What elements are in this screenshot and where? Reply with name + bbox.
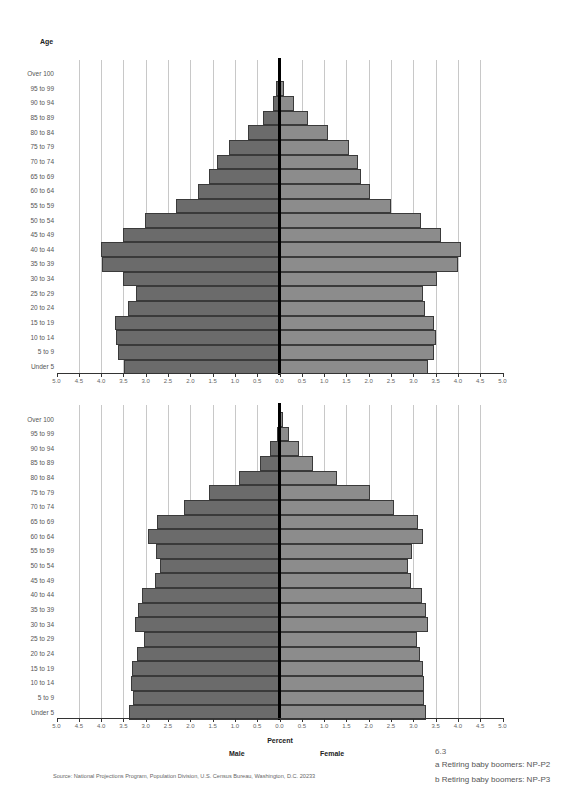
x-tick-label: 3.5 (426, 723, 446, 729)
x-tick (213, 718, 214, 722)
male-bar (148, 529, 279, 544)
age-group-label: Under 5 (0, 708, 54, 718)
gridline (79, 405, 80, 718)
female-bar (280, 500, 394, 515)
x-tick (280, 718, 281, 722)
male-bar (138, 603, 279, 618)
x-tick (391, 718, 392, 722)
x-tick (168, 718, 169, 722)
x-tick-label: 5.0 (47, 723, 67, 729)
male-bar (131, 676, 280, 691)
male-bar (184, 500, 279, 515)
age-group-label: 80 to 84 (0, 473, 54, 483)
gridline (436, 405, 437, 718)
pyramid-chart-b: Over 10095 to 9990 to 9485 to 8980 to 84… (0, 0, 563, 795)
male-bar (260, 456, 279, 471)
caption-b: b Retiring baby boomers: NP-P3 (435, 775, 550, 784)
age-group-label: 60 to 64 (0, 532, 54, 542)
x-tick (57, 718, 58, 722)
age-group-label: 75 to 79 (0, 488, 54, 498)
x-tick (346, 718, 347, 722)
x-tick (79, 718, 80, 722)
male-bar (142, 588, 280, 603)
female-bar (280, 529, 423, 544)
female-bar (280, 544, 413, 559)
male-bar (132, 661, 279, 676)
x-tick-label: 4.0 (448, 723, 468, 729)
male-bar (155, 573, 280, 588)
age-group-label: 15 to 19 (0, 664, 54, 674)
gridline (458, 405, 459, 718)
age-group-label: Over 100 (0, 415, 54, 425)
age-group-label: 40 to 44 (0, 590, 54, 600)
male-bar (209, 485, 279, 500)
x-tick-label: 1.5 (203, 723, 223, 729)
x-tick (146, 718, 147, 722)
x-tick (101, 718, 102, 722)
x-tick-label: 1.5 (336, 723, 356, 729)
x-tick-label: 0.0 (270, 723, 290, 729)
male-bar (156, 544, 280, 559)
male-bar (239, 471, 279, 486)
female-bar (280, 515, 419, 530)
age-group-label: 20 to 24 (0, 649, 54, 659)
x-tick-label: 5.0 (493, 723, 513, 729)
x-tick-label: 1.0 (314, 723, 334, 729)
male-bar (137, 647, 279, 662)
x-tick (190, 718, 191, 722)
age-group-label: 65 to 69 (0, 517, 54, 527)
x-tick (324, 718, 325, 722)
x-tick-label: 1.0 (225, 723, 245, 729)
x-tick-label: 2.0 (180, 723, 200, 729)
x-tick-label: 2.5 (381, 723, 401, 729)
gridline (480, 405, 481, 718)
x-tick-label: 2.0 (359, 723, 379, 729)
age-group-label: 25 to 29 (0, 634, 54, 644)
female-bar (280, 485, 371, 500)
x-tick (503, 718, 504, 722)
center-zero-line (278, 403, 281, 720)
age-group-label: 10 to 14 (0, 678, 54, 688)
x-tick (458, 718, 459, 722)
age-group-label: 90 to 94 (0, 444, 54, 454)
gridline (101, 405, 102, 718)
age-group-label: 45 to 49 (0, 576, 54, 586)
female-bar (280, 573, 412, 588)
age-group-label: 50 to 54 (0, 561, 54, 571)
female-bar (280, 661, 424, 676)
female-bar (280, 691, 424, 706)
male-bar (160, 559, 280, 574)
x-tick-label: 3.0 (403, 723, 423, 729)
age-group-label: 70 to 74 (0, 502, 54, 512)
age-group-label: 95 to 99 (0, 429, 54, 439)
x-tick-label: 4.5 (470, 723, 490, 729)
male-bar (135, 617, 280, 632)
caption-a: a Retiring baby boomers: NP-P2 (435, 760, 550, 769)
age-group-label: 35 to 39 (0, 605, 54, 615)
male-label: Male (229, 750, 245, 757)
age-group-label: 85 to 89 (0, 458, 54, 468)
x-tick-label: 0.5 (247, 723, 267, 729)
male-bar (133, 691, 280, 706)
age-group-label: 30 to 34 (0, 620, 54, 630)
x-tick (123, 718, 124, 722)
source-note: Source: National Projections Program, Po… (53, 773, 315, 779)
x-tick (369, 718, 370, 722)
female-bar (280, 676, 424, 691)
x-tick-label: 2.5 (158, 723, 178, 729)
figure-number: 6.3 (435, 747, 446, 756)
x-tick (257, 718, 258, 722)
female-bar (280, 456, 313, 471)
x-tick (235, 718, 236, 722)
age-group-label: 5 to 9 (0, 693, 54, 703)
gridline (123, 405, 124, 718)
female-bar (280, 647, 420, 662)
x-tick-label: 3.5 (113, 723, 133, 729)
female-bar (280, 441, 300, 456)
female-bar (280, 632, 417, 647)
female-label: Female (320, 750, 344, 757)
female-bar (280, 471, 338, 486)
age-group-label: 55 to 59 (0, 546, 54, 556)
x-tick (413, 718, 414, 722)
x-tick (302, 718, 303, 722)
